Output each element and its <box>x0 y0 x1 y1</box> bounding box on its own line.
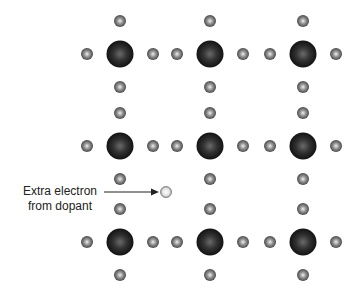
valence-electron <box>114 81 126 93</box>
valence-electron <box>297 173 309 185</box>
valence-electron <box>297 269 309 281</box>
valence-electron <box>297 203 309 215</box>
label-line-1: Extra electron <box>14 184 106 199</box>
valence-electron <box>297 81 309 93</box>
host-atom <box>197 229 224 256</box>
host-atom <box>107 229 134 256</box>
valence-electron <box>81 140 93 152</box>
valence-electron <box>297 107 309 119</box>
valence-electron <box>114 269 126 281</box>
valence-electron <box>330 140 342 152</box>
valence-electron <box>264 48 276 60</box>
host-atom <box>290 133 317 160</box>
valence-electron <box>204 81 216 93</box>
valence-electron <box>171 236 183 248</box>
valence-electron <box>114 15 126 27</box>
valence-electron <box>264 236 276 248</box>
extra-electron <box>161 187 172 198</box>
valence-electron <box>330 48 342 60</box>
valence-electron <box>81 236 93 248</box>
valence-electron <box>297 15 309 27</box>
valence-electron <box>264 140 276 152</box>
valence-electron <box>204 107 216 119</box>
valence-electron <box>147 140 159 152</box>
arrow-head-icon <box>151 189 159 196</box>
label-line-2: from dopant <box>14 199 106 214</box>
valence-electron <box>237 140 249 152</box>
valence-electron <box>204 15 216 27</box>
host-atom <box>197 41 224 68</box>
valence-electron <box>114 203 126 215</box>
valence-electron <box>114 107 126 119</box>
valence-electron <box>237 236 249 248</box>
lattice-svg <box>0 0 363 295</box>
valence-electron <box>171 48 183 60</box>
valence-electron <box>204 173 216 185</box>
valence-electron <box>81 48 93 60</box>
host-atom <box>290 41 317 68</box>
valence-electron <box>171 140 183 152</box>
valence-electron <box>147 236 159 248</box>
valence-electron <box>330 236 342 248</box>
valence-electron <box>237 48 249 60</box>
host-atom <box>290 229 317 256</box>
valence-electron <box>147 48 159 60</box>
valence-electron <box>204 203 216 215</box>
lattice-diagram: Extra electron from dopant <box>0 0 363 295</box>
host-atom <box>197 133 224 160</box>
host-atom <box>107 41 134 68</box>
extra-electron-label: Extra electron from dopant <box>14 184 106 214</box>
host-atom <box>107 133 134 160</box>
valence-electron <box>114 173 126 185</box>
valence-electron <box>204 269 216 281</box>
